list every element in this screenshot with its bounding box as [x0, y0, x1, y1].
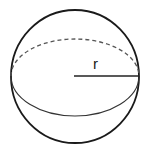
equator-front-arc [11, 76, 139, 116]
radius-label: r [93, 55, 98, 72]
sphere-diagram: r [0, 0, 145, 151]
equator-back-dashed-arc [11, 39, 139, 76]
